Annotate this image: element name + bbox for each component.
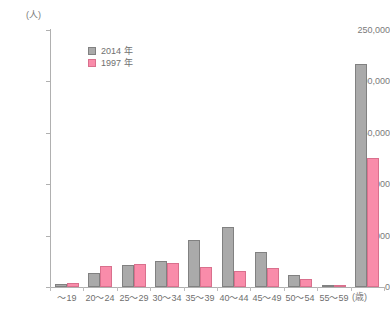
bar-1997	[267, 268, 279, 287]
bar-1997	[300, 279, 312, 287]
x-category-label: ～19	[57, 291, 76, 304]
y-tick-label: 250,000	[344, 25, 390, 35]
y-tick-mark	[46, 81, 51, 82]
x-tick-mark	[384, 287, 385, 291]
bar-1997	[167, 263, 179, 287]
bar-1997	[234, 271, 246, 287]
x-tick-mark	[50, 287, 51, 291]
y-axis-line	[50, 29, 51, 288]
y-tick-label: 150,000	[344, 128, 390, 138]
x-tick-mark	[217, 287, 218, 291]
x-tick-mark	[250, 287, 251, 291]
x-tick-mark	[317, 287, 318, 291]
bar-chart: (人) (歳) 050,000100,000150,000200,000250,…	[0, 0, 390, 311]
x-tick-mark	[351, 287, 352, 291]
legend-swatch-2014-icon	[88, 47, 96, 55]
bar-2014	[322, 285, 334, 287]
bar-1997	[134, 264, 146, 287]
bar-1997	[67, 283, 79, 287]
x-tick-mark	[150, 287, 151, 291]
y-tick-label: 200,000	[344, 76, 390, 86]
legend-item-2014: 2014 年	[88, 45, 133, 57]
chart-legend: 2014 年 1997 年	[88, 45, 133, 69]
bar-2014	[288, 275, 300, 287]
x-category-label: 35～39	[185, 291, 214, 304]
bar-2014	[188, 240, 200, 287]
x-category-label: 30～34	[152, 291, 181, 304]
y-tick-mark	[46, 236, 51, 237]
x-category-label: 45～49	[252, 291, 281, 304]
bar-1997	[100, 266, 112, 287]
y-axis-unit-label: (人)	[26, 8, 41, 21]
x-tick-mark	[117, 287, 118, 291]
legend-label-2014: 2014 年	[101, 45, 133, 57]
bar-1997	[200, 267, 212, 287]
bar-2014	[355, 64, 367, 287]
bar-2014	[122, 265, 134, 287]
x-category-label: 40～44	[219, 291, 248, 304]
bar-2014	[255, 252, 267, 288]
legend-swatch-1997-icon	[88, 59, 96, 67]
bar-1997	[367, 158, 379, 287]
x-category-label: 25～29	[119, 291, 148, 304]
bar-2014	[155, 261, 167, 287]
y-tick-mark	[46, 184, 51, 185]
bar-1997	[334, 285, 346, 287]
y-tick-mark	[46, 133, 51, 134]
x-category-label: 50～54	[285, 291, 314, 304]
x-category-label: 55～59	[319, 291, 348, 304]
legend-item-1997: 1997 年	[88, 57, 133, 69]
legend-label-1997: 1997 年	[101, 57, 133, 69]
bar-2014	[222, 227, 234, 287]
bar-2014	[88, 273, 100, 287]
x-tick-mark	[83, 287, 84, 291]
y-tick-mark	[46, 30, 51, 31]
x-category-label: 20～24	[85, 291, 114, 304]
bar-2014	[55, 284, 67, 287]
